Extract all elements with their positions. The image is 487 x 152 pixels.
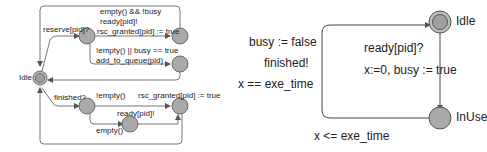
- state-inuse: [429, 107, 451, 129]
- edge-label-rsc-granted-bottom: rsc_granted[pid] := true: [138, 92, 221, 100]
- edge-label-return-update: busy := false: [249, 36, 317, 48]
- state-granted-bottom: [172, 98, 188, 114]
- edge-label-finished: finished?: [54, 94, 86, 102]
- edge-return-middle: [48, 72, 180, 80]
- edge-label-add-to-queue: add_to_queue(pid): [96, 57, 163, 65]
- edge-label-rsc-granted-top: rsc_granted[pid] := true: [97, 28, 180, 36]
- edge-label-reserve: reserve[pid]?: [43, 26, 89, 34]
- edge-label-guard-not-empty-or-busy: !empty() || busy == true: [96, 47, 178, 55]
- edge-reserve: [42, 36, 79, 71]
- invariant-label-inuse: x <= exe_time: [314, 130, 389, 142]
- state-label-idle-right: Idle: [456, 15, 475, 27]
- edge-label-ready-sync: ready[pid]?: [364, 42, 423, 54]
- edge-label-guard-empty-not-busy: empty() && !busy: [100, 8, 161, 16]
- edge-label-sync-ready-bottom: ready[pid]!: [117, 110, 154, 118]
- state-label-idle-left: Idle: [19, 74, 32, 82]
- edge-label-return-guard: x == exe_time: [238, 78, 313, 90]
- state-queued: [172, 56, 188, 72]
- state-empty: [122, 116, 138, 132]
- edge-label-guard-not-empty: !empty(): [96, 92, 125, 100]
- state-label-inuse: InUse: [456, 111, 487, 123]
- edge-label-ready-update: x:=0, busy := true: [364, 64, 457, 76]
- edge-label-guard-empty: empty(): [96, 127, 123, 135]
- edge-label-sync-ready: ready[pid]!: [100, 18, 137, 26]
- edge-label-return-sync: finished!: [264, 57, 309, 69]
